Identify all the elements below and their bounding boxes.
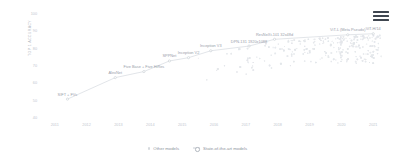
- other-model-point: [355, 56, 356, 57]
- sota-label-vit-h-14: ViT-H/14: [366, 26, 381, 31]
- plot-area: TOP 1 ACCURACY 100908070605040 201120122…: [42, 14, 386, 118]
- other-model-point: [272, 47, 273, 48]
- other-model-point: [322, 37, 323, 38]
- sota-point-vit-h-14[interactable]: [372, 33, 374, 35]
- other-model-point: [369, 37, 371, 39]
- other-model-point: [364, 37, 366, 39]
- x-tick-2021: 2021: [369, 123, 377, 127]
- other-model-point: [358, 45, 360, 47]
- other-model-point: [314, 39, 315, 40]
- other-model-point: [353, 39, 355, 41]
- y-axis-title: TOP 1 ACCURACY: [28, 20, 32, 56]
- other-model-point: [310, 61, 312, 63]
- other-model-point: [314, 41, 315, 42]
- x-tick-2016: 2016: [210, 123, 218, 127]
- other-model-point: [357, 46, 358, 47]
- other-model-point: [352, 46, 354, 48]
- other-model-point: [292, 51, 293, 52]
- other-model-point: [308, 38, 310, 40]
- other-model-point: [357, 39, 359, 41]
- other-model-point: [377, 35, 379, 37]
- other-model-point: [374, 41, 376, 43]
- sota-label-sift-fvs: SIFT + FVs: [58, 92, 78, 97]
- other-model-point: [247, 58, 249, 60]
- other-model-point: [340, 48, 341, 49]
- other-model-point: [288, 48, 290, 50]
- other-model-point: [345, 51, 347, 53]
- sota-point-resnext-101-32x48d[interactable]: [273, 38, 275, 40]
- other-model-point: [281, 48, 283, 50]
- other-model-point: [336, 51, 337, 52]
- other-model-point: [291, 40, 292, 41]
- other-model-point: [325, 55, 326, 56]
- other-model-point: [321, 57, 323, 59]
- sota-point-inception-v3[interactable]: [210, 50, 212, 52]
- sota-label-resnext-101-32x48d: ResNeXt-101 32x48d: [256, 32, 293, 37]
- other-model-point: [380, 38, 381, 39]
- other-model-point: [370, 45, 372, 47]
- legend-item-sota-models[interactable]: State-of-the-art models: [193, 146, 247, 151]
- other-model-point: [291, 55, 292, 56]
- other-model-point: [283, 50, 285, 52]
- legend-item-other-models[interactable]: Other models: [148, 146, 179, 151]
- x-tick-2018: 2018: [273, 123, 281, 127]
- other-model-point: [291, 53, 293, 55]
- other-model-point: [365, 59, 367, 61]
- other-model-point: [230, 53, 232, 55]
- sota-point-sift-fvs[interactable]: [66, 98, 68, 100]
- other-model-point: [340, 61, 341, 62]
- y-tick-60: 60: [33, 81, 37, 85]
- other-model-point: [304, 52, 305, 53]
- other-model-point: [264, 45, 266, 47]
- other-model-point: [236, 71, 238, 73]
- other-model-point: [226, 53, 228, 55]
- other-model-point: [341, 52, 342, 53]
- other-model-point: [274, 47, 276, 49]
- other-model-point: [279, 48, 281, 50]
- other-model-point: [340, 40, 341, 41]
- sota-point-sppnet[interactable]: [168, 60, 170, 62]
- other-model-point: [379, 35, 381, 37]
- other-model-point: [287, 55, 289, 57]
- other-model-point: [289, 49, 290, 50]
- other-model-point: [313, 42, 315, 44]
- other-model-point: [314, 45, 315, 46]
- other-model-point: [300, 41, 302, 43]
- other-model-point: [360, 39, 362, 41]
- other-model-point: [337, 62, 338, 63]
- other-model-point: [292, 40, 293, 41]
- other-model-point: [355, 35, 357, 37]
- y-tick-40: 40: [33, 116, 37, 120]
- other-model-point: [355, 51, 356, 52]
- other-model-point: [319, 39, 320, 40]
- other-model-point: [335, 38, 336, 39]
- sota-label-vit-l-meta-pseudo: ViT-L (Meta Pseudo): [330, 27, 365, 32]
- other-model-point: [303, 40, 305, 42]
- other-model-point: [347, 52, 349, 54]
- other-model-point: [247, 62, 249, 64]
- sota-point-vit-l-meta-pseudo[interactable]: [347, 34, 349, 36]
- other-model-point: [366, 53, 367, 54]
- other-model-point: [303, 53, 304, 54]
- y-tick-90: 90: [33, 29, 37, 33]
- imagenet-accuracy-chart: TOP 1 ACCURACY 100908070605040 201120122…: [0, 0, 395, 156]
- other-model-point: [362, 35, 364, 37]
- other-model-point: [360, 35, 362, 37]
- other-model-point: [355, 61, 357, 63]
- other-model-point: [238, 48, 240, 50]
- other-model-point: [373, 57, 375, 59]
- sota-point-five-base-five-hires[interactable]: [143, 70, 145, 72]
- other-model-point: [291, 42, 293, 44]
- other-model-point: [340, 38, 342, 40]
- other-model-point: [328, 55, 329, 56]
- sota-point-inception-v2[interactable]: [187, 57, 189, 59]
- other-model-point: [342, 49, 344, 51]
- sota-point-alexnet[interactable]: [114, 77, 116, 79]
- x-tick-2012: 2012: [82, 123, 90, 127]
- other-model-point: [378, 47, 379, 48]
- x-tick-2013: 2013: [114, 123, 122, 127]
- other-model-point: [372, 45, 373, 46]
- other-model-point: [372, 51, 374, 53]
- sota-point-dpn-131-1920x1088[interactable]: [248, 45, 250, 47]
- other-model-point: [369, 52, 371, 54]
